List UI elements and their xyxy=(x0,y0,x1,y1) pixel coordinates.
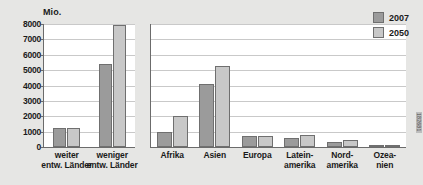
bar-group xyxy=(90,25,136,147)
bar-group xyxy=(236,136,279,147)
x-axis-category-label: weiterentw. Länder xyxy=(41,150,92,170)
x-axis-category-label: Ozea-nien xyxy=(373,150,396,170)
x-axis-category-label: Afrika xyxy=(161,150,185,160)
legend-swatch-2007-icon xyxy=(373,12,384,23)
gridline xyxy=(151,24,406,25)
gridline xyxy=(151,39,406,40)
bar-2050[interactable] xyxy=(215,66,230,147)
legend-label-2007: 2007 xyxy=(389,13,409,23)
gridline xyxy=(151,101,406,102)
y-axis-tick-mark xyxy=(41,70,44,71)
y-axis-tick-label: 4000 xyxy=(23,81,41,91)
y-axis-tick-mark xyxy=(41,55,44,56)
gridline xyxy=(151,86,406,87)
legend-label-2050: 2050 xyxy=(389,28,409,38)
y-axis-tick-mark xyxy=(41,147,44,148)
y-axis-tick-label: 1000 xyxy=(23,127,41,137)
legend-swatch-2050-icon xyxy=(373,27,384,38)
source-credit: 182681 xyxy=(416,112,422,133)
y-axis-tick-label: 6000 xyxy=(23,50,41,60)
bar-group xyxy=(321,140,364,147)
bar-group xyxy=(364,145,407,147)
bar-2050[interactable] xyxy=(113,25,126,147)
bar-group xyxy=(151,116,194,147)
bar-2050[interactable] xyxy=(385,145,400,147)
bar-2007[interactable] xyxy=(199,84,214,147)
y-axis-tick-mark xyxy=(41,39,44,40)
x-axis-category-label: wenigerentw. Länder xyxy=(87,150,138,170)
x-axis-category-label: Asien xyxy=(203,150,226,160)
y-axis-tick-mark xyxy=(41,116,44,117)
y-axis-unit-label: Mio. xyxy=(43,7,61,17)
bar-2050[interactable] xyxy=(258,136,273,147)
y-axis-tick-label: 2000 xyxy=(23,111,41,121)
chart-legend: 2007 2050 xyxy=(373,12,409,38)
bar-2007[interactable] xyxy=(369,145,384,147)
bar-group xyxy=(279,135,322,147)
bar-2007[interactable] xyxy=(242,136,257,147)
bar-group xyxy=(44,128,90,147)
bar-2007[interactable] xyxy=(53,128,66,147)
bar-group xyxy=(194,66,237,147)
y-axis-tick-label: 8000 xyxy=(23,19,41,29)
bar-2007[interactable] xyxy=(327,142,342,147)
gridline xyxy=(151,70,406,71)
plot-area-right: AfrikaAsienEuropaLatein-amerikaNord-amer… xyxy=(150,24,406,148)
x-axis-category-label: Europa xyxy=(243,150,272,160)
gridline xyxy=(151,55,406,56)
bar-2007[interactable] xyxy=(284,138,299,147)
y-axis-tick-mark xyxy=(41,86,44,87)
y-axis-tick-label: 3000 xyxy=(23,96,41,106)
bar-2007[interactable] xyxy=(99,64,112,147)
x-axis-category-label: Latein-amerika xyxy=(284,150,315,170)
y-axis-tick-mark xyxy=(41,24,44,25)
bar-2007[interactable] xyxy=(157,132,172,147)
y-axis-tick-label: 5000 xyxy=(23,65,41,75)
x-axis-category-label: Nord-amerika xyxy=(327,150,358,170)
population-projection-figure: Mio. 010002000300040005000600070008000we… xyxy=(0,0,423,185)
chart-panel-development-level: Mio. 010002000300040005000600070008000we… xyxy=(8,6,136,179)
plot-area-left: 010002000300040005000600070008000weitere… xyxy=(43,24,135,148)
y-axis-tick-mark xyxy=(41,101,44,102)
bar-2050[interactable] xyxy=(67,128,80,147)
chart-panel-regions: AfrikaAsienEuropaLatein-amerikaNord-amer… xyxy=(142,6,415,179)
bar-2050[interactable] xyxy=(173,116,188,147)
legend-item-2050[interactable]: 2050 xyxy=(373,27,409,38)
legend-item-2007[interactable]: 2007 xyxy=(373,12,409,23)
bar-2050[interactable] xyxy=(343,140,358,147)
bar-2050[interactable] xyxy=(300,135,315,147)
y-axis-tick-label: 7000 xyxy=(23,34,41,44)
